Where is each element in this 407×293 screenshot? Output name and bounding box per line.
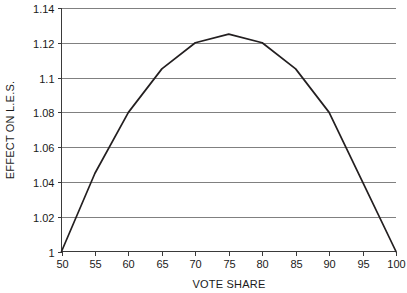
y-axis-tick-labels-group: 11.021.041.061.081.11.121.14 [33,3,54,259]
x-axis-title: VOTE SHARE [193,278,266,290]
y-axis-tick-label: 1.04 [33,177,54,189]
y-axis-tick-label: 1.14 [33,3,54,15]
x-axis-tick-label: 65 [156,258,168,270]
x-axis-tick-label: 55 [89,258,101,270]
y-axis-tick-label: 1.06 [33,142,54,154]
x-axis-tick-label: 70 [189,258,201,270]
x-axis-tick-label: 100 [387,258,405,270]
line-chart: 11.021.041.061.081.11.121.14 50556065707… [0,0,407,293]
x-axis-tick-label: 75 [223,258,235,270]
y-axis-tick-label: 1.1 [39,73,54,85]
chart-container: 11.021.041.061.081.11.121.14 50556065707… [0,0,407,293]
x-axis-tick-label: 60 [122,258,134,270]
x-axis-tick-label: 85 [290,258,302,270]
x-axis-tick-label: 50 [56,258,68,270]
x-axis-tick-label: 90 [323,258,335,270]
y-axis-tick-label: 1.02 [33,212,54,224]
y-axis-tick-label: 1 [48,247,54,259]
x-axis-ticks-group [63,252,397,256]
gridlines-group [62,9,397,218]
x-axis-tick-labels-group: 50556065707580859095100 [56,258,405,270]
x-axis-tick-label: 80 [256,258,268,270]
x-axis-tick-label: 95 [357,258,369,270]
data-series-line [62,34,397,251]
y-axis-tick-label: 1.12 [33,38,54,50]
y-axis-title: EFFECT ON L.E.S. [4,81,16,179]
y-axis-tick-label: 1.08 [33,107,54,119]
